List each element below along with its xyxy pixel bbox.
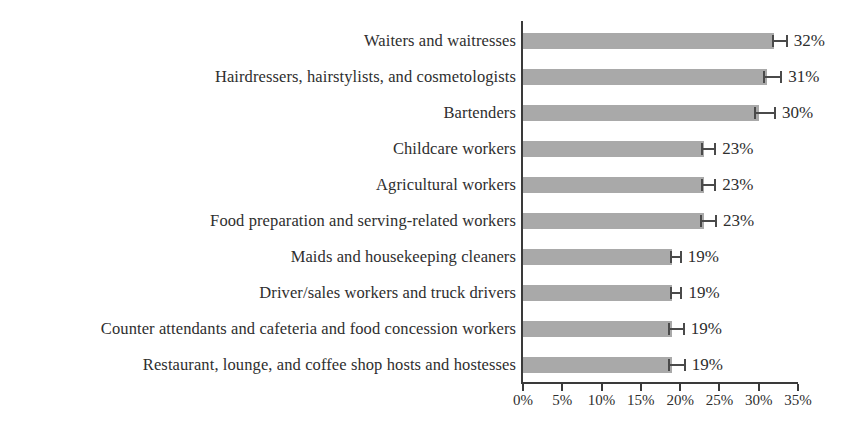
error-bar-cap-right	[680, 251, 682, 263]
bar	[523, 249, 672, 265]
error-bar-cap-right	[684, 359, 686, 371]
value-label: 32%	[794, 23, 825, 59]
error-bar	[772, 33, 788, 49]
category-label: Childcare workers	[393, 131, 516, 167]
x-axis-tick-label: 10%	[588, 392, 616, 409]
error-bar-line	[754, 112, 776, 114]
bar-row: Agricultural workers23%	[0, 167, 850, 203]
error-bar-cap-left	[763, 71, 765, 83]
bar	[523, 69, 767, 85]
error-bar-cap-left	[668, 359, 670, 371]
error-bar	[701, 141, 717, 157]
bar-row: Hairdressers, hairstylists, and cosmetol…	[0, 59, 850, 95]
value-label: 19%	[692, 347, 723, 383]
bar-row: Food preparation and serving-related wor…	[0, 203, 850, 239]
error-bar-cap-right	[774, 107, 776, 119]
x-axis-tick	[679, 384, 681, 391]
bar-chart: Waiters and waitresses32%Hairdressers, h…	[0, 0, 850, 434]
error-bar-cap-left	[701, 143, 703, 155]
bar-row: Restaurant, lounge, and coffee shop host…	[0, 347, 850, 383]
x-axis-tick-label: 20%	[666, 392, 694, 409]
error-bar	[670, 285, 683, 301]
error-bar	[700, 213, 717, 229]
x-axis-tick	[522, 384, 524, 391]
x-axis-tick	[758, 384, 760, 391]
bar	[523, 33, 774, 49]
plot-area: Waiters and waitresses32%Hairdressers, h…	[0, 0, 850, 434]
category-label: Food preparation and serving-related wor…	[210, 203, 516, 239]
category-label: Waiters and waitresses	[364, 23, 516, 59]
x-axis-tick	[640, 384, 642, 391]
error-bar-cap-left	[700, 215, 702, 227]
x-axis-tick	[561, 384, 563, 391]
x-axis-tick-label: 15%	[627, 392, 655, 409]
bar	[523, 141, 704, 157]
error-bar	[754, 105, 776, 121]
error-bar	[668, 321, 685, 337]
bar-row: Maids and housekeeping cleaners19%	[0, 239, 850, 275]
error-bar-cap-right	[714, 143, 716, 155]
bar-row: Bartenders30%	[0, 95, 850, 131]
x-axis-tick	[718, 384, 720, 391]
error-bar	[701, 177, 717, 193]
category-label: Hairdressers, hairstylists, and cosmetol…	[215, 59, 516, 95]
value-label: 31%	[788, 59, 819, 95]
category-label: Agricultural workers	[376, 167, 516, 203]
error-bar-cap-left	[670, 251, 672, 263]
bar	[523, 321, 672, 337]
error-bar	[668, 357, 685, 373]
x-axis-tick-label: 0%	[513, 392, 533, 409]
error-bar-cap-left	[668, 323, 670, 335]
error-bar-cap-left	[701, 179, 703, 191]
error-bar-cap-right	[786, 35, 788, 47]
bar	[523, 213, 704, 229]
error-bar-cap-left	[772, 35, 774, 47]
bar	[523, 285, 672, 301]
category-label: Counter attendants and cafeteria and foo…	[101, 311, 516, 347]
error-bar	[763, 69, 783, 85]
error-bar-cap-right	[680, 287, 682, 299]
value-label: 23%	[722, 167, 753, 203]
x-axis-tick-label: 30%	[745, 392, 773, 409]
category-label: Restaurant, lounge, and coffee shop host…	[143, 347, 516, 383]
bar-row: Childcare workers23%	[0, 131, 850, 167]
bar-row: Counter attendants and cafeteria and foo…	[0, 311, 850, 347]
x-axis-tick	[601, 384, 603, 391]
error-bar-cap-left	[754, 107, 756, 119]
bar	[523, 357, 672, 373]
x-axis-tick-label: 25%	[706, 392, 734, 409]
error-bar-cap-left	[670, 287, 672, 299]
value-label: 23%	[723, 203, 754, 239]
error-bar-cap-right	[683, 323, 685, 335]
bar	[523, 177, 704, 193]
error-bar-cap-right	[715, 215, 717, 227]
x-axis-tick-label: 35%	[784, 392, 812, 409]
x-axis-tick-label: 5%	[552, 392, 572, 409]
category-label: Driver/sales workers and truck drivers	[259, 275, 516, 311]
error-bar	[670, 249, 682, 265]
error-bar-cap-right	[780, 71, 782, 83]
category-label: Maids and housekeeping cleaners	[291, 239, 516, 275]
bar-row: Waiters and waitresses32%	[0, 23, 850, 59]
value-label: 19%	[689, 275, 720, 311]
category-label: Bartenders	[444, 95, 516, 131]
value-label: 19%	[688, 239, 719, 275]
value-label: 19%	[691, 311, 722, 347]
x-axis-tick	[797, 384, 799, 391]
value-label: 30%	[782, 95, 813, 131]
bar-row: Driver/sales workers and truck drivers19…	[0, 275, 850, 311]
error-bar-cap-right	[714, 179, 716, 191]
bar	[523, 105, 759, 121]
value-label: 23%	[722, 131, 753, 167]
